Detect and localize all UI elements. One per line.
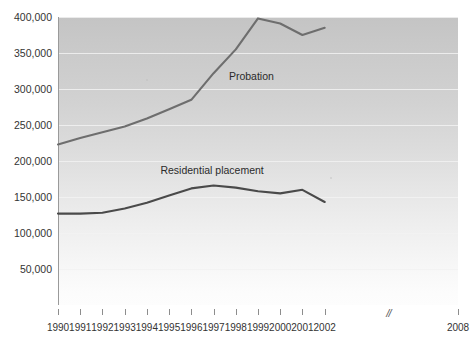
- chart-figure: 400,000 350,000 300,000 250,000 200,000 …: [0, 0, 473, 341]
- x-tick: [236, 309, 237, 315]
- x-tick: [458, 309, 459, 315]
- x-tick-label: 2002: [305, 322, 345, 333]
- series-label-residential: Residential placement: [160, 164, 263, 176]
- x-tick: [125, 309, 126, 315]
- x-tick: [280, 309, 281, 315]
- x-tick: [169, 309, 170, 315]
- axis-break-marker: //: [386, 307, 390, 319]
- x-tick: [214, 309, 215, 315]
- x-tick: [191, 309, 192, 315]
- x-tick: [58, 309, 59, 315]
- x-tick: [80, 309, 81, 315]
- x-tick: [102, 309, 103, 315]
- x-tick: [325, 309, 326, 315]
- x-tick: [302, 309, 303, 315]
- series-line-probation: [58, 18, 325, 144]
- series-label-probation: Probation: [229, 70, 274, 82]
- x-tick: [147, 309, 148, 315]
- x-tick-label: 2008: [438, 322, 473, 333]
- series-line-residential: [58, 186, 325, 214]
- x-tick: [258, 309, 259, 315]
